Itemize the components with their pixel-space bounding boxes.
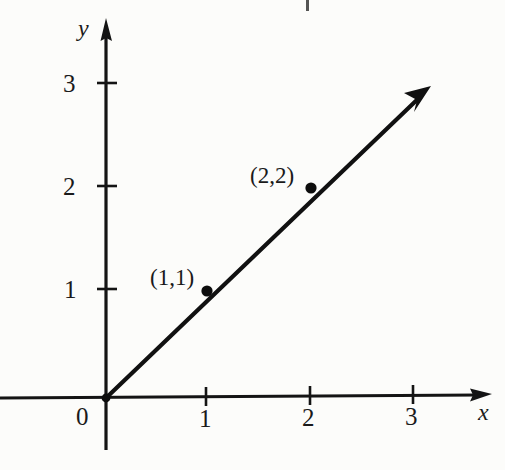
x-axis-label: x	[478, 400, 489, 424]
x-tick-label-3: 3	[405, 404, 418, 429]
y-tick-label-2: 2	[63, 174, 76, 199]
data-point-2-2	[305, 182, 316, 193]
origin-dot	[102, 394, 111, 403]
coordinate-plane-plot	[0, 0, 505, 470]
y-axis-label: y	[78, 16, 89, 40]
x-tick-label-1: 1	[199, 406, 212, 431]
y-axis-arrowhead	[101, 18, 113, 41]
x-tick-label-2: 2	[302, 405, 315, 430]
y-tick-label-1: 1	[64, 277, 77, 302]
point-label-2-2: (2,2)	[250, 164, 294, 187]
x-axis-line	[0, 395, 478, 398]
origin-tick-label: 0	[76, 404, 89, 429]
scan-artifact-mark	[306, 0, 309, 11]
line-y-equals-x	[106, 96, 421, 398]
y-tick-label-3: 3	[63, 71, 76, 96]
point-label-1-1: (1,1)	[150, 266, 194, 289]
data-point-1-1	[201, 285, 212, 296]
figure-canvas: y x 0 1 2 3 1 2 3 (1,1) (2,2)	[0, 0, 505, 470]
